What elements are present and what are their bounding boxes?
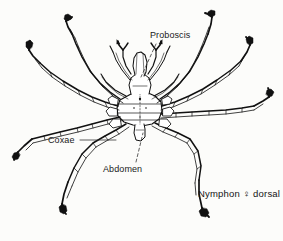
species-caption: Nymphon ♀ dorsal (198, 189, 280, 199)
cephalon (129, 74, 151, 94)
proboscis (133, 52, 147, 76)
abdomen (134, 124, 145, 141)
label-abdomen: Abdomen (103, 165, 142, 174)
label-proboscis: Proboscis (150, 31, 190, 40)
sea-spider-illustration (0, 0, 283, 241)
label-coxae: Coxae (48, 136, 75, 145)
figure-container: Proboscis Coxae Abdomen Nymphon ♀ dorsal (0, 0, 283, 241)
